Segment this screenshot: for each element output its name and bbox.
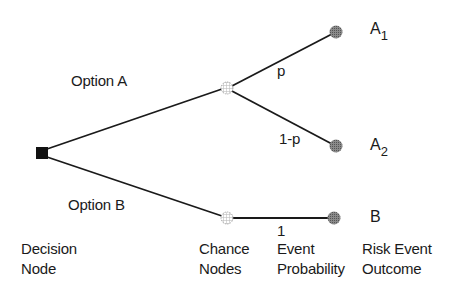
edge-a-to-a1 [230, 34, 332, 87]
outcome-a2-label: A2 [370, 136, 388, 154]
edge-option-a [47, 89, 222, 149]
outcome-a1-label: A1 [370, 20, 388, 38]
probability-1-minus-p-label: 1-p [279, 130, 300, 147]
outcome-node-a2-icon [330, 140, 343, 153]
chance-node-b-icon [221, 212, 233, 224]
probability-1-label: 1 [277, 222, 285, 239]
legend-chance-nodes: Chance Nodes [199, 239, 250, 279]
legend-event-probability: Event Probability [277, 239, 345, 279]
legend-risk-event-outcome: Risk Event Outcome [362, 239, 432, 279]
outcome-node-a1-icon [330, 26, 343, 39]
option-a-label: Option A [71, 72, 127, 89]
chance-node-a-icon [221, 82, 233, 94]
probability-p-label: p [277, 62, 285, 79]
outcome-b-label: B [370, 208, 381, 226]
outcome-node-b-icon [328, 212, 341, 225]
decision-node-icon [36, 147, 48, 159]
legend-decision-node: Decision Node [21, 239, 77, 279]
option-b-label: Option B [68, 196, 125, 213]
